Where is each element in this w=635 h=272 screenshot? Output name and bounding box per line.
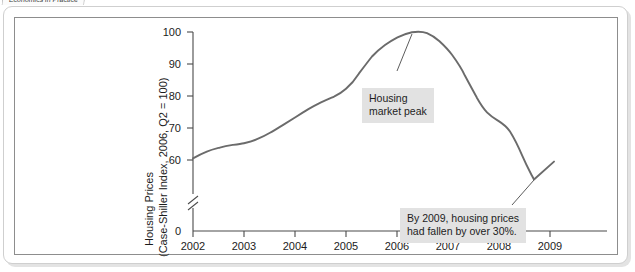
- x-tick-label-2005: 2005: [326, 241, 366, 252]
- x-tick-label-2009: 2009: [530, 241, 570, 252]
- annotation-housing-market-peak: Housing market peak: [362, 88, 434, 123]
- annotation-decline-note: By 2009, housing prices had fallen by ov…: [400, 208, 526, 243]
- y-tick-label-70: 70: [155, 123, 181, 134]
- header-strip: Economics in Practice: [0, 0, 635, 5]
- leader-line-peak: [397, 34, 412, 71]
- annotation-decline-line2: had fallen by over 30%.: [407, 225, 519, 238]
- chart-frame: Housing Prices (Case-Shiller Index, 2006…: [14, 17, 618, 255]
- y-tick-label-60: 60: [155, 155, 181, 166]
- y-tick-label-80: 80: [155, 91, 181, 102]
- y-tick-label-100: 100: [155, 27, 181, 38]
- annotation-peak-line1: Housing: [369, 92, 427, 105]
- y-tick-label-0: 0: [155, 226, 181, 237]
- screenshot-root: Economics in Practice: [0, 0, 635, 272]
- chart-plot-area: [15, 18, 619, 256]
- x-tick-label-2002: 2002: [173, 241, 213, 252]
- y-tick-label-90: 90: [155, 59, 181, 70]
- annotation-peak-line2: market peak: [369, 105, 427, 118]
- annotation-decline-line1: By 2009, housing prices: [407, 212, 519, 225]
- leader-line-decline: [512, 180, 534, 205]
- header-tab-label: Economics in Practice: [1, 0, 85, 5]
- x-tick-label-2004: 2004: [275, 241, 315, 252]
- x-tick-label-2003: 2003: [224, 241, 264, 252]
